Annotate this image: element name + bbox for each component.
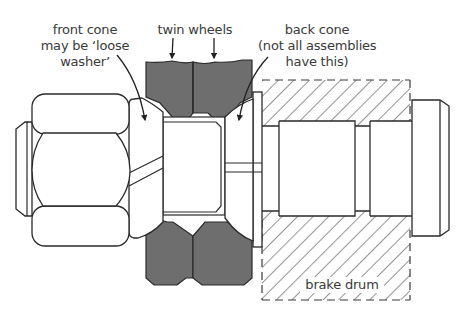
- label-front-cone-line3: washer’: [30, 54, 140, 70]
- back-cone: [225, 99, 253, 241]
- label-back-cone: back cone (not all assemblies have this): [258, 22, 376, 70]
- label-back-cone-line2: (not all assemblies: [258, 38, 376, 54]
- label-twin-wheels: twin wheels: [150, 22, 240, 38]
- stud-sleeve: [163, 117, 225, 215]
- label-front-cone-line2: may be ‘loose: [30, 38, 140, 54]
- label-front-cone: front cone may be ‘loose washer’: [30, 22, 140, 70]
- label-back-cone-line3: have this): [258, 54, 376, 70]
- stud-end-cap: [412, 100, 449, 236]
- brake-drum: [262, 80, 412, 300]
- nut-washer: [16, 122, 32, 216]
- label-front-cone-line1: front cone: [30, 22, 140, 38]
- label-brake-drum-text: brake drum: [302, 277, 382, 293]
- label-back-cone-line1: back cone: [258, 22, 376, 38]
- label-brake-drum: brake drum: [300, 277, 384, 293]
- front-cone: [129, 98, 163, 238]
- label-twin-wheels-text: twin wheels: [150, 22, 240, 38]
- hex-nut: [32, 94, 130, 246]
- flange-plate: [253, 92, 262, 247]
